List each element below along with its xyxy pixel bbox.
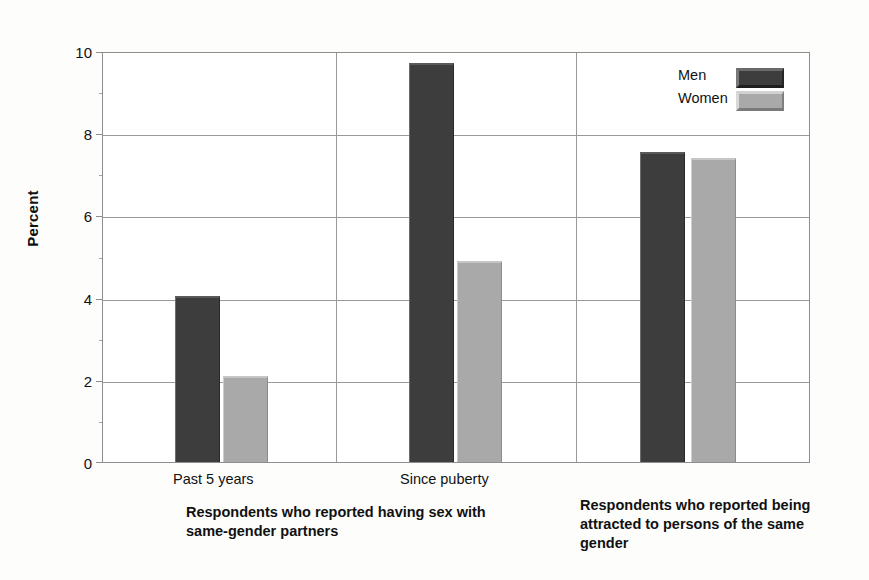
bar-men-past-5-years — [175, 296, 220, 463]
x-tick-label-since-puberty: Since puberty — [400, 471, 489, 487]
legend-swatch-women-icon — [736, 91, 784, 111]
group-caption-attraction: Respondents who reported being attracted… — [580, 496, 840, 553]
y-tick-label-8: 8 — [58, 126, 92, 143]
legend-label-men: Men — [678, 67, 706, 83]
group-caption-having-sex: Respondents who reported having sex with… — [186, 503, 486, 541]
legend-swatch-men-icon — [736, 68, 784, 88]
y-tick-label-2: 2 — [58, 372, 92, 389]
legend-row-women: Women — [678, 89, 794, 113]
x-tick-label-past-5-years: Past 5 years — [173, 471, 254, 487]
legend: Men Women — [678, 66, 794, 118]
y-tick-label-6: 6 — [58, 208, 92, 225]
bar-women-past-5-years — [223, 376, 268, 462]
y-tick-label-4: 4 — [58, 290, 92, 307]
y-tick-label-0: 0 — [58, 455, 92, 472]
group-separator-2 — [576, 53, 577, 462]
bar-men-attraction — [640, 152, 685, 462]
legend-row-men: Men — [678, 66, 794, 90]
y-tick-label-10: 10 — [58, 44, 92, 61]
bar-men-since-puberty — [409, 63, 454, 462]
bar-chart-figure: Percent 10 8 6 4 2 0 — [0, 0, 869, 580]
y-axis-tick-labels: 10 8 6 4 2 0 — [52, 52, 92, 463]
bar-women-attraction — [691, 158, 736, 462]
legend-label-women: Women — [678, 90, 728, 106]
gridline-8 — [103, 135, 809, 136]
bar-women-since-puberty — [457, 261, 502, 462]
group-separator-1 — [336, 53, 337, 462]
y-axis-title: Percent — [24, 159, 41, 279]
